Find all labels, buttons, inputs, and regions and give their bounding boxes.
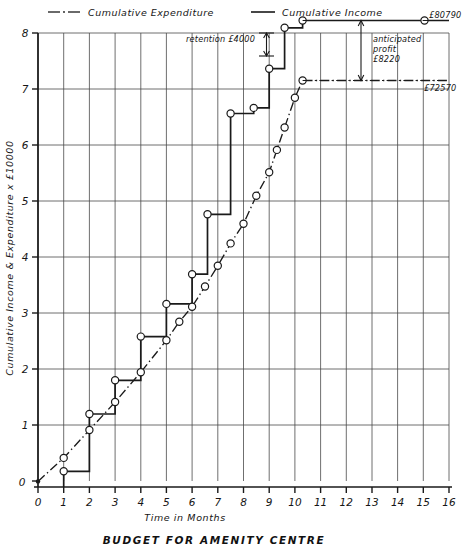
x-tick-label-7: 7 bbox=[214, 496, 221, 508]
annotation-anticipated-profit: anticipated profit £8220 bbox=[358, 21, 422, 81]
x-tick-label-14: 14 bbox=[391, 496, 404, 508]
expenditure-marker bbox=[253, 192, 260, 199]
anticipated-profit-label-line1: anticipated bbox=[373, 34, 422, 44]
x-tick-label-0: 0 bbox=[35, 496, 42, 508]
legend-label-income: Cumulative Income bbox=[282, 7, 383, 18]
x-tick-label-4: 4 bbox=[137, 496, 144, 508]
legend-swatch-dot-a bbox=[63, 11, 65, 13]
x-tick-label-8: 8 bbox=[240, 496, 247, 508]
expenditure-marker bbox=[266, 169, 273, 176]
x-tick-label-11: 11 bbox=[314, 496, 327, 508]
x-tick-label-10: 10 bbox=[288, 496, 302, 508]
x-axis-title: Time in Months bbox=[144, 512, 225, 523]
income-marker bbox=[189, 271, 196, 278]
retention-label: retention £4000 bbox=[186, 34, 255, 44]
income-marker bbox=[266, 65, 273, 72]
x-tick-label-15: 15 bbox=[417, 496, 431, 508]
profit-dimension-arrow bbox=[358, 21, 364, 81]
expenditure-marker bbox=[86, 426, 93, 433]
y-tick-label-0: 0 bbox=[19, 476, 26, 488]
income-marker bbox=[250, 104, 257, 111]
series-cumulative-income bbox=[60, 17, 449, 487]
expenditure-marker bbox=[189, 303, 196, 310]
expenditure-marker bbox=[60, 454, 67, 461]
chart-legend: Cumulative Expenditure Cumulative Income bbox=[48, 7, 383, 18]
x-tick-label-6: 6 bbox=[189, 496, 196, 508]
expenditure-marker bbox=[273, 146, 280, 153]
income-marker bbox=[137, 333, 144, 340]
y-tick-label-3: 3 bbox=[22, 307, 29, 319]
x-tick-labels: 0 1 2 3 4 5 6 7 8 9 10 11 12 13 14 15 16 bbox=[35, 496, 456, 508]
income-marker bbox=[204, 211, 211, 218]
expenditure-marker bbox=[163, 337, 170, 344]
expenditure-marker bbox=[137, 369, 144, 376]
annotation-retention: retention £4000 bbox=[186, 33, 274, 56]
y-tick-label-2: 2 bbox=[22, 363, 29, 375]
y-tick-label-5: 5 bbox=[22, 195, 29, 207]
x-tick-label-5: 5 bbox=[163, 496, 170, 508]
income-step-path bbox=[64, 21, 449, 488]
expenditure-marker bbox=[201, 283, 208, 290]
final-expenditure-label: £72570 bbox=[424, 83, 456, 93]
x-tick-label-13: 13 bbox=[365, 496, 378, 508]
final-income-label: £80790 bbox=[429, 10, 461, 20]
expenditure-marker bbox=[227, 240, 234, 247]
legend-label-expenditure: Cumulative Expenditure bbox=[88, 7, 214, 18]
series-cumulative-expenditure bbox=[36, 77, 449, 484]
y-tick-label-6: 6 bbox=[22, 139, 29, 151]
budget-chart: Cumulative Expenditure Cumulative Income bbox=[0, 0, 465, 551]
income-marker bbox=[112, 377, 119, 384]
expenditure-marker bbox=[176, 318, 183, 325]
x-tick-label-2: 2 bbox=[86, 496, 93, 508]
expenditure-marker bbox=[214, 262, 221, 269]
y-tick-label-1: 1 bbox=[22, 419, 29, 431]
expenditure-origin-dot bbox=[36, 479, 40, 483]
income-marker bbox=[227, 110, 234, 117]
x-tick-label-12: 12 bbox=[340, 496, 354, 508]
income-marker bbox=[281, 24, 288, 31]
expenditure-marker bbox=[112, 398, 119, 405]
anticipated-profit-label-line2: profit bbox=[372, 44, 397, 54]
legend-item-expenditure: Cumulative Expenditure bbox=[48, 7, 214, 18]
expenditure-marker bbox=[281, 124, 288, 131]
anticipated-profit-label-line3: £8220 bbox=[373, 54, 400, 64]
chart-svg: Cumulative Expenditure Cumulative Income bbox=[0, 0, 465, 551]
income-marker bbox=[163, 300, 170, 307]
retention-dimension-arrow bbox=[259, 33, 274, 56]
x-tick-label-16: 16 bbox=[442, 496, 456, 508]
y-tick-marks bbox=[32, 33, 38, 481]
y-tick-label-4: 4 bbox=[22, 251, 29, 263]
chart-axes bbox=[32, 33, 452, 493]
y-tick-label-8: 8 bbox=[22, 27, 29, 39]
x-tick-label-3: 3 bbox=[112, 496, 119, 508]
x-tick-marks bbox=[38, 487, 449, 493]
income-marker bbox=[60, 468, 67, 475]
expenditure-marker bbox=[240, 220, 247, 227]
expenditure-marker bbox=[291, 94, 298, 101]
y-tick-labels: 8 7 6 5 4 3 2 1 0 bbox=[19, 27, 29, 488]
y-tick-label-7: 7 bbox=[22, 83, 29, 95]
y-axis-title: Cumulative Income & Expenditure x £10000 bbox=[4, 140, 15, 375]
figure-title: BUDGET FOR AMENITY CENTRE bbox=[103, 534, 326, 546]
income-marker bbox=[86, 410, 93, 417]
x-tick-label-9: 9 bbox=[266, 496, 273, 508]
legend-item-income: Cumulative Income bbox=[251, 7, 383, 18]
x-tick-label-1: 1 bbox=[60, 496, 67, 508]
